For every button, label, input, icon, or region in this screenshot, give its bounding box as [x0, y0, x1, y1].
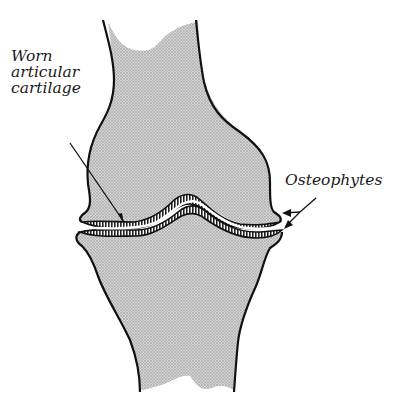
- worn-cartilage-label-line-2: articular: [11, 64, 81, 80]
- osteophytes-label: Osteophytes: [285, 172, 382, 188]
- worn-cartilage-label: Worn articular cartilage: [11, 48, 81, 96]
- osteophyte-arrows: [282, 198, 316, 229]
- worn-cartilage-label-line-3: cartilage: [11, 80, 81, 96]
- worn-cartilage-label-line-1: Worn: [11, 48, 81, 64]
